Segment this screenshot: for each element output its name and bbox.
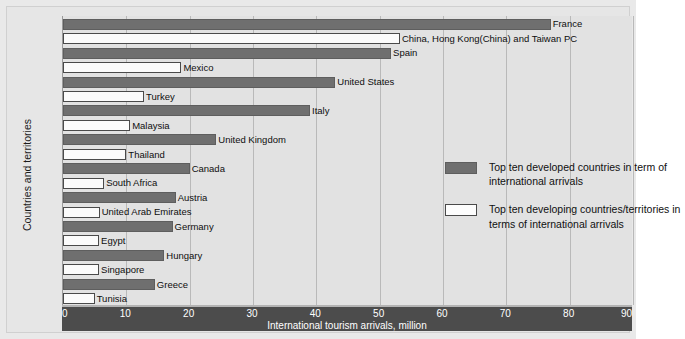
x-tick-label-10: 10 [120,308,131,319]
bar-label: Egypt [101,236,125,246]
bar-label: Malaysia [132,121,170,131]
bar-developed[interactable] [63,105,310,116]
bar-developing[interactable] [63,62,181,73]
bar-row[interactable]: United Kingdom [63,134,632,146]
x-tick-label-40: 40 [310,308,321,319]
bar-developed[interactable] [63,77,335,88]
bar-developing[interactable] [63,120,130,131]
bar-developed[interactable] [63,250,164,261]
bar-row[interactable]: France [63,18,632,30]
y-axis-title: Countries and territories [18,95,36,255]
bar-developing[interactable] [63,235,99,246]
bar-developed[interactable] [63,134,216,145]
plot-area: FranceChina, Hong Kong(China) and Taiwan… [62,16,632,305]
bar-label: United Arab Emirates [102,207,192,217]
bar-label: Hungary [166,251,202,261]
bar-developing[interactable] [63,33,400,44]
y-axis-title-text: Countries and territories [21,119,33,231]
bar-row[interactable]: Singapore [63,264,632,276]
bar-row[interactable]: Hungary [63,249,632,261]
legend-swatch-developed [445,162,477,174]
legend-item-developing[interactable]: Top ten developing countries/territories… [445,202,685,230]
bar-label: China, Hong Kong(China) and Taiwan PC [402,34,577,44]
bar-developed[interactable] [63,48,391,59]
x-tick-label-90: 90 [621,308,632,319]
bar-row[interactable]: Mexico [63,62,632,74]
bar-row[interactable]: Thailand [63,148,632,160]
bar-row[interactable]: Italy [63,105,632,117]
bar-label: France [553,19,583,29]
bar-row[interactable]: Turkey [63,90,632,102]
bar-developed[interactable] [63,279,155,290]
bar-developing[interactable] [63,149,126,160]
x-tick-label-80: 80 [563,308,574,319]
bar-label: Mexico [183,63,213,73]
bar-label: South Africa [106,178,157,188]
bar-row[interactable]: Malaysia [63,119,632,131]
bar-developing[interactable] [63,91,144,102]
bar-row[interactable]: Spain [63,47,632,59]
bar-developing[interactable] [63,207,100,218]
bar-label: Turkey [146,92,175,102]
bar-developed[interactable] [63,19,551,30]
legend-item-developed[interactable]: Top ten developed countries in term of i… [445,160,685,188]
x-tick-label-0: 0 [62,308,68,319]
bar-label: Canada [192,164,225,174]
bar-label: Greece [157,280,188,290]
legend-label: Top ten developed countries in term of i… [489,160,685,188]
bar-developing[interactable] [63,178,104,189]
bar-developed[interactable] [63,221,173,232]
bar-label: Thailand [128,150,164,160]
x-tick-label-50: 50 [373,308,384,319]
bar-label: Italy [312,106,329,116]
bar-row[interactable]: Tunisia [63,293,632,305]
x-axis: 0102030405060708090 International touris… [62,305,632,331]
bar-developing[interactable] [63,264,99,275]
bar-developed[interactable] [63,192,176,203]
bar-row[interactable]: Greece [63,278,632,290]
x-tick-label-70: 70 [500,308,511,319]
bar-label: Spain [393,48,417,58]
bar-row[interactable]: China, Hong Kong(China) and Taiwan PC [63,33,632,45]
bar-row[interactable]: United States [63,76,632,88]
bar-label: Singapore [101,265,144,275]
bar-label: United Kingdom [218,135,286,145]
bar-developing[interactable] [63,293,95,304]
legend: Top ten developed countries in term of i… [445,160,685,245]
bar-label: Germany [175,222,214,232]
bar-label: Tunisia [97,294,127,304]
bar-label: Austria [178,193,208,203]
x-tick-label-20: 20 [183,308,194,319]
x-tick-label-30: 30 [246,308,257,319]
legend-label: Top ten developing countries/territories… [489,202,685,230]
legend-swatch-developing [445,204,477,216]
bar-label: United States [337,77,394,87]
x-tick-label-60: 60 [436,308,447,319]
bar-developed[interactable] [63,163,190,174]
x-axis-title: International tourism arrivals, million [62,320,632,331]
